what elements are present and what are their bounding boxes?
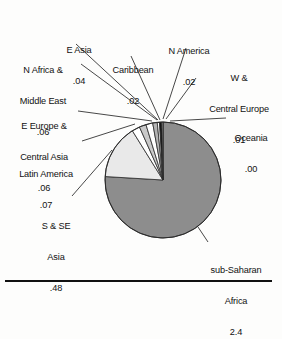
pie-label-subsaharan-value: 2.4 xyxy=(198,327,274,337)
pie-label-oceania-name: Oceania xyxy=(224,133,278,143)
pie-label-oceania: Oceania .00 xyxy=(224,112,278,195)
pie-label-n-africa-name-1: N Africa & xyxy=(4,65,82,75)
pie-label-s-se-asia: S & SE Asia .48 xyxy=(26,200,86,314)
pie-label-s-se-asia-value: .48 xyxy=(26,283,86,293)
pie-label-subsaharan-name-2: Africa xyxy=(198,296,274,306)
pie-label-subsaharan-africa: sub-Saharan Africa 2.4 xyxy=(198,244,274,339)
pie-label-subsaharan-name-1: sub-Saharan xyxy=(198,265,274,275)
pie-label-caribbean: Caribbean .02 xyxy=(104,44,162,127)
pie-label-s-se-asia-name-1: S & SE xyxy=(26,221,86,231)
pie-label-latin-america-name: Latin America xyxy=(7,169,85,179)
pie-label-e-europe-name-1: E Europe & xyxy=(6,121,82,131)
pie-label-w-europe-name-1: W & xyxy=(198,73,280,83)
bottom-rule xyxy=(5,280,272,282)
pie-label-s-se-asia-name-2: Asia xyxy=(26,252,86,262)
pie-label-caribbean-value: .02 xyxy=(104,96,162,106)
pie-label-caribbean-name: Caribbean xyxy=(104,65,162,75)
pie-label-oceania-value: .00 xyxy=(224,164,278,174)
